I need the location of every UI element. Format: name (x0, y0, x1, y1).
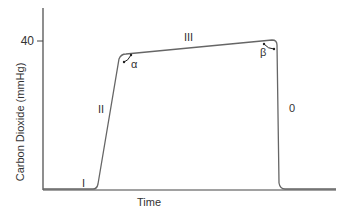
capnogram-chart: 40 α β I II III 0 Time Carbon Dioxide (m… (0, 0, 351, 217)
beta-label: β (260, 46, 266, 58)
phase-0-label: 0 (289, 102, 295, 114)
phase-3-label: III (184, 31, 193, 43)
beta-dot (273, 48, 275, 50)
alpha-dot (123, 61, 125, 63)
y-tick-label: 40 (21, 34, 35, 48)
x-axis-title: Time (137, 196, 161, 208)
alpha-dot (130, 54, 132, 56)
beta-dot (263, 43, 265, 45)
alpha-angle-arc (124, 55, 131, 62)
capnogram-curve (43, 40, 336, 189)
phase-2-label: II (98, 103, 104, 115)
y-axis-title: Carbon Dioxide (mmHg) (14, 63, 26, 182)
phase-1-label: I (82, 177, 85, 189)
alpha-label: α (131, 58, 138, 70)
